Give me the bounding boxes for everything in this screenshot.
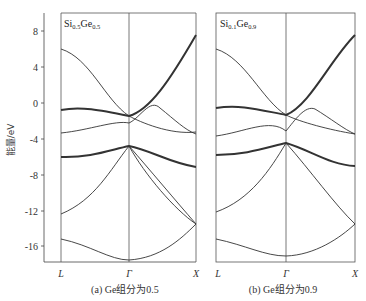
band-a-valence [61,146,196,167]
y-tick-0: 0 [33,98,38,109]
panel-a-title: Si0.5Ge0.5 [64,18,100,30]
k-label-gamma-a: Γ [125,268,132,279]
y-tick-m16: -16 [25,241,38,252]
caption-b: (b) Ge组分为0.9 [249,283,317,296]
band-b-bottom [216,224,355,256]
band-b-mid [216,108,355,136]
panel-b-title: Si0.1Ge0.9 [220,18,256,30]
caption-a: (a) Ge组分为0.5 [91,283,159,296]
k-label-X-a: X [192,268,200,279]
panel-a: Si0.5Ge0.5 L Γ X (a) Ge组分为0.5 [57,13,200,296]
y-tick-8: 8 [33,26,38,37]
y-tick-4: 4 [33,62,38,73]
y-tick-m12: -12 [25,206,38,217]
k-label-X-b: X [351,268,359,279]
band-a-conduction [61,35,196,116]
band-b-low2 [286,143,355,224]
band-b-conduction [216,35,355,115]
k-label-L-a: L [57,268,64,279]
band-a-low [61,146,196,224]
band-b-low [216,143,286,212]
band-b-valence [216,143,355,166]
y-axis-label: 能量/eV [5,123,16,157]
band-a-upper [61,49,196,132]
y-tick-m8: -8 [30,170,38,181]
band-a-bottom [61,224,196,260]
k-label-gamma-b: Γ [282,268,289,279]
band-a-mid [61,105,196,134]
band-structure-figure: 8 4 0 -4 -8 -12 -16 能量/eV Si0.5Ge0.5 L Γ… [0,0,366,301]
panel-b: Si0.1Ge0.9 L Γ X (b) Ge组分为0.9 [214,13,359,296]
k-label-L-b: L [214,268,221,279]
y-tick-m4: -4 [30,134,38,145]
